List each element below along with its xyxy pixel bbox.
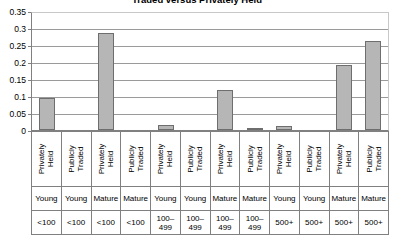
y-axis-tick-label: 0.25 [9,42,26,51]
x-axis-ownership-label: PubliclyTraded [240,132,269,187]
x-axis-ownership-label: PubliclyTraded [121,132,150,187]
x-axis-age-label: Young [181,187,210,211]
y-axis-tick-label: 0.1 [14,93,26,102]
x-axis-ownership-label: PubliclyTraded [300,132,329,187]
plot-area-wrapper [31,12,389,131]
bar[interactable] [158,125,174,130]
x-axis-age-label: Mature [240,187,269,211]
x-axis-size-label: <100 [32,211,61,235]
x-axis-age-label: Young [32,187,61,211]
bar-slot [180,13,210,130]
x-axis-ownership-label: PrivatelyHeld [92,132,121,187]
bar[interactable] [98,33,114,130]
x-axis-column: PubliclyTradedYoung500+ [300,132,330,235]
x-axis-size-label: 500+ [300,211,329,235]
x-axis-column: PubliclyTradedMature100– 499 [240,132,270,235]
bar-slot [269,13,299,130]
x-axis-age-label: Young [270,187,299,211]
x-axis-ownership-label: PrivatelyHeld [151,132,180,187]
x-axis-ownership-label: PubliclyTraded [181,132,210,187]
x-axis-ownership-label: PrivatelyHeld [330,132,359,187]
x-axis-ownership-label: PubliclyTraded [359,132,388,187]
bar[interactable] [247,128,263,130]
bar-chart: Traded versus Privately Held 00.050.10.1… [0,0,394,235]
bar-slot [299,13,329,130]
x-axis-size-label: 500+ [359,211,388,235]
bar-slot [358,13,388,130]
x-axis-size-label: 100– 499 [151,211,180,235]
chart-title: Traded versus Privately Held [0,0,394,5]
x-axis-size-label: 100– 499 [240,211,269,235]
bar-slot [121,13,151,130]
bar[interactable] [39,98,55,130]
y-axis-tick-label: 0.3 [14,25,26,34]
x-axis-column: PubliclyTradedYoung<100 [62,132,92,235]
bar-slot [62,13,92,130]
x-axis-ownership-label: PrivatelyHeld [32,132,61,187]
bar-series [32,13,388,130]
x-axis-column: PrivatelyHeldYoung100– 499 [151,132,181,235]
x-axis-age-label: Mature [92,187,121,211]
x-axis-size-label: <100 [62,211,91,235]
bar-slot [329,13,359,130]
x-axis-column: PubliclyTradedMature<100 [121,132,151,235]
y-axis-tick-label: 0.35 [9,8,26,17]
bar-slot [240,13,270,130]
y-axis-tick-label: 0.15 [9,76,26,85]
y-axis-tick-label: 0.2 [14,59,26,68]
y-axis: 00.050.10.150.20.250.30.35 [0,12,26,131]
x-axis-ownership-label: PubliclyTraded [62,132,91,187]
x-axis-column: PubliclyTradedYoung100– 499 [181,132,211,235]
x-axis-size-label: 100– 499 [211,211,240,235]
x-axis-age-label: Mature [359,187,388,211]
x-axis-ownership-label: PrivatelyHeld [211,132,240,187]
x-axis-age-label: Young [62,187,91,211]
x-axis-column: PrivatelyHeldMature500+ [330,132,360,235]
x-axis-size-label: <100 [92,211,121,235]
x-axis-age-label: Young [300,187,329,211]
bar[interactable] [336,65,352,130]
bar[interactable] [276,126,292,130]
x-axis-label-table: PrivatelyHeldYoung<100PubliclyTradedYoun… [31,131,389,235]
x-axis-age-label: Mature [330,187,359,211]
bar-slot [32,13,62,130]
bar[interactable] [217,90,233,130]
x-axis-age-label: Mature [211,187,240,211]
y-axis-tick-label: 0 [21,127,26,136]
bar-slot [91,13,121,130]
x-axis-column: PubliclyTradedMature500+ [359,132,389,235]
x-axis-size-label: 500+ [270,211,299,235]
x-axis-size-label: 500+ [330,211,359,235]
x-axis-column: PrivatelyHeldYoung500+ [270,132,300,235]
x-axis-size-label: <100 [121,211,150,235]
x-axis-column: PrivatelyHeldMature100– 499 [211,132,241,235]
bar-slot [151,13,181,130]
bar-slot [210,13,240,130]
y-axis-tick-label: 0.05 [9,110,26,119]
x-axis-age-label: Young [151,187,180,211]
x-axis-column: PrivatelyHeldYoung<100 [32,132,62,235]
x-axis-size-label: 100– 499 [181,211,210,235]
bar[interactable] [365,41,381,130]
x-axis-column: PrivatelyHeldMature<100 [92,132,122,235]
x-axis-ownership-label: PrivatelyHeld [270,132,299,187]
x-axis-age-label: Mature [121,187,150,211]
